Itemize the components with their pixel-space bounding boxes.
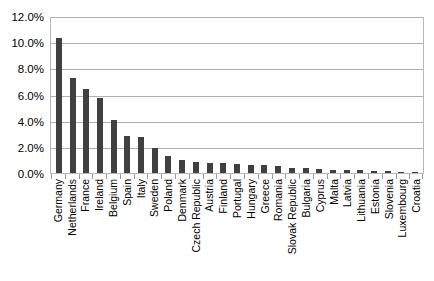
bar[interactable] (138, 137, 144, 173)
bar-slot (244, 18, 258, 173)
x-tick-label: Finland (218, 179, 229, 213)
x-label-slot: Czech Republic (189, 179, 203, 279)
bar[interactable] (316, 169, 322, 173)
x-tick-label: Ireland (94, 179, 105, 211)
x-tick-label: Belgium (108, 179, 119, 217)
x-tick-label: Sweden (149, 179, 160, 217)
x-label-slot: Austria (203, 179, 217, 279)
y-tick-label: 2.0% (18, 142, 44, 154)
bar[interactable] (289, 168, 295, 173)
bars-container (51, 18, 423, 173)
bar-slot (203, 18, 217, 173)
bar[interactable] (344, 170, 350, 173)
x-tick-label: Romania (273, 179, 284, 221)
x-tick-label: Hungary (245, 179, 256, 219)
bar[interactable] (385, 171, 391, 173)
x-label-slot: Lithuania (354, 179, 368, 279)
bar-slot (312, 18, 326, 173)
bar-slot (162, 18, 176, 173)
bar[interactable] (371, 171, 377, 173)
x-label-slot: Netherlands (65, 179, 79, 279)
x-tick-label: Portugal (232, 179, 243, 218)
bar-slot (285, 18, 299, 173)
bar[interactable] (193, 162, 199, 173)
bar-slot (395, 18, 409, 173)
bar-slot (271, 18, 285, 173)
bar[interactable] (152, 148, 158, 174)
x-tick-label: France (80, 179, 91, 212)
y-tick-label: 12.0% (11, 11, 44, 23)
x-label-slot: Germany (51, 179, 65, 279)
bar-slot (216, 18, 230, 173)
x-tick-label: Croatia (411, 179, 422, 213)
x-tick-label: Slovenia (383, 179, 394, 219)
bar-chart: 12.0%10.0%8.0%6.0%4.0%2.0%0.0% GermanyNe… (0, 0, 434, 281)
x-tick-label: Cyprus (314, 179, 325, 212)
bar-slot (326, 18, 340, 173)
x-tick-label: Slovak Republic (287, 179, 298, 254)
x-tick-label: Bulgaria (300, 179, 311, 218)
x-tick-label: Italy (135, 179, 146, 198)
x-label-slot: Malta (327, 179, 341, 279)
x-tick-label: Estonia (369, 179, 380, 214)
x-label-slot: Sweden (147, 179, 161, 279)
bar[interactable] (261, 165, 267, 173)
bar-slot (189, 18, 203, 173)
x-tick-label: Poland (163, 179, 174, 212)
y-tick-label: 8.0% (18, 63, 44, 75)
y-tick-label: 4.0% (18, 116, 44, 128)
bar[interactable] (56, 38, 62, 173)
bar-slot (107, 18, 121, 173)
bar-slot (340, 18, 354, 173)
bar-slot (79, 18, 93, 173)
bar-slot (66, 18, 80, 173)
bar-slot (52, 18, 66, 173)
x-axis-labels: GermanyNetherlandsFranceIrelandBelgiumSp… (50, 179, 424, 279)
bar[interactable] (179, 160, 185, 173)
bar[interactable] (83, 89, 89, 173)
bar-slot (93, 18, 107, 173)
x-label-slot: Italy (134, 179, 148, 279)
bar[interactable] (97, 98, 103, 173)
y-axis: 12.0%10.0%8.0%6.0%4.0%2.0%0.0% (0, 0, 47, 281)
x-tick-label: Greece (259, 179, 270, 213)
bar[interactable] (330, 170, 336, 173)
bar[interactable] (220, 163, 226, 173)
bar[interactable] (248, 165, 254, 174)
bar[interactable] (357, 170, 363, 173)
bar[interactable] (234, 164, 240, 173)
x-label-slot: Slovenia (382, 179, 396, 279)
bar[interactable] (412, 172, 418, 173)
bar[interactable] (303, 168, 309, 173)
bar-slot (299, 18, 313, 173)
bar[interactable] (70, 78, 76, 173)
bar[interactable] (398, 172, 404, 173)
bar[interactable] (111, 120, 117, 173)
x-label-slot: Latvia (340, 179, 354, 279)
x-tick-label: Latvia (342, 179, 353, 207)
bar[interactable] (124, 136, 130, 173)
bar[interactable] (207, 163, 213, 173)
x-tick-label: Luxembourg (397, 179, 408, 237)
x-label-slot: Luxembourg (396, 179, 410, 279)
bar-slot (367, 18, 381, 173)
bar[interactable] (165, 156, 171, 173)
y-tick-label: 0.0% (18, 168, 44, 180)
x-label-slot: Portugal (230, 179, 244, 279)
x-label-slot: Belgium (106, 179, 120, 279)
x-label-slot: Finland (216, 179, 230, 279)
x-tick-label: Germany (52, 179, 63, 222)
x-label-slot: Slovak Republic (285, 179, 299, 279)
x-tick-label: Denmark (176, 179, 187, 222)
x-tick-label: Netherlands (66, 179, 77, 236)
plot-area (50, 17, 424, 174)
x-label-slot: Cyprus (313, 179, 327, 279)
x-tick-label: Austria (204, 179, 215, 212)
x-label-slot: Romania (272, 179, 286, 279)
bar-slot (230, 18, 244, 173)
x-label-slot: Denmark (175, 179, 189, 279)
bar[interactable] (275, 166, 281, 173)
bar-slot (353, 18, 367, 173)
y-tick-label: 10.0% (11, 37, 44, 49)
x-label-slot: Bulgaria (299, 179, 313, 279)
